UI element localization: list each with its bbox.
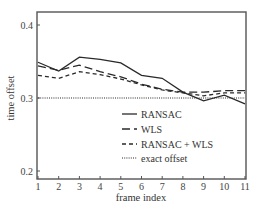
x-tick-label: 2 [56, 181, 61, 192]
x-tick-label: 7 [160, 181, 165, 192]
x-tick-label: 1 [36, 181, 41, 192]
legend-label: WLS [141, 124, 162, 135]
x-tick-label: 11 [240, 181, 250, 192]
y-tick-label: 0.4 [21, 20, 34, 31]
legend-label: exact offset [141, 153, 187, 164]
x-tick-label: 9 [201, 181, 206, 192]
x-axis-label: frame index [116, 192, 167, 203]
legend-label: RANSAC + WLS [141, 139, 213, 150]
series-wls [38, 65, 245, 92]
series-ransac [38, 57, 245, 104]
x-tick-label: 3 [77, 181, 82, 192]
legend-label: RANSAC [141, 109, 182, 120]
x-tick-label: 6 [139, 181, 144, 192]
y-tick-label: 0.2 [21, 166, 34, 177]
line-chart: 1234567891011 0.20.30.4 frame index time… [0, 0, 259, 212]
x-tick-label: 4 [98, 181, 103, 192]
x-tick-label: 8 [180, 181, 185, 192]
x-tick-label: 10 [219, 181, 229, 192]
y-axis-label: time offset [5, 75, 16, 120]
x-tick-label: 5 [118, 181, 123, 192]
y-tick-label: 0.3 [21, 93, 34, 104]
series-layer [38, 57, 245, 104]
legend: RANSACWLSRANSAC + WLSexact offset [122, 109, 213, 164]
